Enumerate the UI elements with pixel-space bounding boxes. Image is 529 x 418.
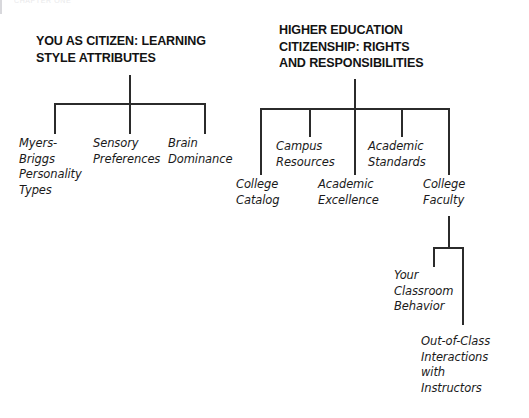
page-edge-mark bbox=[0, 0, 2, 14]
connector-drop-brain-dominance bbox=[204, 103, 206, 134]
node-brain-dominance: Brain Dominance bbox=[168, 136, 254, 167]
connector-stem-right-tree bbox=[354, 79, 356, 109]
node-campus-resources: Campus Resources bbox=[276, 139, 360, 170]
node-out-of-class-interactions: Out-of-Class Interactions with Instructo… bbox=[421, 334, 523, 396]
node-college-faculty: College Faculty bbox=[423, 177, 497, 208]
diagram-canvas: CHAPTER ONE YOU AS CITIZEN: LEARNING STY… bbox=[0, 0, 529, 418]
connector-drop-campus-resources bbox=[309, 108, 311, 137]
connector-drop-sensory-preferences bbox=[129, 103, 131, 134]
node-college-catalog: College Catalog bbox=[236, 177, 310, 208]
node-sensory-preferences: Sensory Preferences bbox=[93, 136, 175, 167]
node-myers-briggs: Myers- Briggs Personality Types bbox=[19, 136, 95, 198]
heading-learning-style: YOU AS CITIZEN: LEARNING STYLE ATTRIBUTE… bbox=[36, 33, 236, 66]
connector-stem-left-tree bbox=[129, 75, 131, 104]
connector-drop-college-catalog bbox=[260, 108, 262, 175]
node-classroom-behavior: Your Classroom Behavior bbox=[394, 268, 466, 315]
node-academic-standards: Academic Standards bbox=[368, 139, 452, 170]
connector-drop-myers-briggs bbox=[54, 103, 56, 134]
node-academic-excellence: Academic Excellence bbox=[318, 177, 402, 208]
connector-bar-college-faculty bbox=[433, 247, 464, 249]
running-header: CHAPTER ONE bbox=[14, 0, 71, 4]
connector-drop-academic-standards bbox=[401, 108, 403, 137]
heading-higher-education-citizenship: HIGHER EDUCATION CITIZENSHIP: RIGHTS AND… bbox=[279, 22, 446, 72]
connector-stem-college-faculty bbox=[448, 216, 450, 248]
connector-drop-classroom-behavior bbox=[433, 247, 435, 267]
